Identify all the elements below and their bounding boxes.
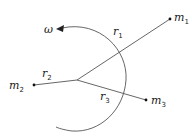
radius-label-r3: r3 [100,90,110,105]
radius-line-r3 [77,80,146,100]
mass-label-m2: m2 [9,79,24,94]
mass-dot-m1 [169,18,172,21]
arrowhead-icon [56,25,64,32]
diagram-canvas: ω m1 m2 m3 r1 r2 r3 [0,0,192,138]
mass-dot-m3 [145,99,148,102]
radius-label-r1: r1 [113,25,123,40]
omega-label: ω [44,23,53,36]
rotation-arc [56,27,126,131]
mass-label-m3: m3 [151,94,166,109]
radius-line-r2 [34,80,77,85]
radius-line-r1 [77,19,170,80]
mass-dot-m2 [33,84,36,87]
mass-label-m1: m1 [174,11,189,26]
radius-label-r2: r2 [42,67,52,82]
